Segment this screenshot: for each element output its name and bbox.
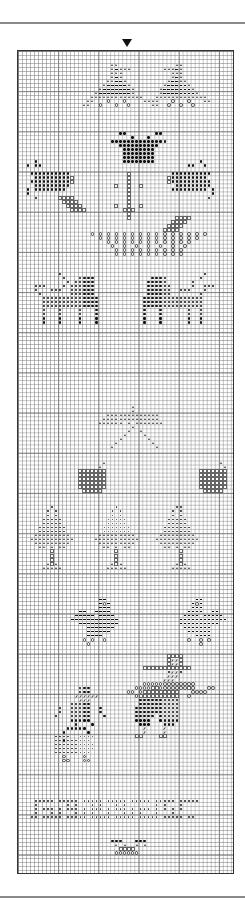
stitch-small-dot: [195, 799, 199, 803]
stitch-open-circle: [98, 236, 102, 240]
stitch-dot-black: [42, 320, 46, 324]
stitch-dot-black: [159, 131, 163, 135]
stitch-dot-black: [147, 722, 151, 726]
stitch-dot-black: [151, 714, 155, 718]
stitch-open-circle: [207, 638, 211, 642]
stitch-dash: [114, 622, 118, 626]
stitch-dot-black: [66, 184, 70, 188]
stitch-small-dot: [90, 746, 94, 750]
stitch-triangle: [90, 99, 94, 103]
stitch-slash: [143, 730, 147, 734]
stitch-triangle: [159, 421, 163, 425]
stitch-triangle: [187, 566, 191, 570]
stitch-triangle: [135, 843, 139, 847]
stitch-small-dot: [147, 799, 151, 803]
cross-stitch-chart-grid: [17, 50, 234, 874]
stitch-open-circle: [90, 638, 94, 642]
stitch-triangle: [123, 433, 127, 437]
stitch-open-circle: [187, 694, 191, 698]
stitch-open-square: [102, 485, 106, 489]
stitch-open-circle: [127, 103, 131, 107]
stitch-open-circle: [114, 240, 118, 244]
stitch-open-circle: [66, 759, 70, 763]
stitch-dot-black: [191, 164, 195, 168]
stitch-dash: [223, 618, 227, 622]
stitch-triangle: [191, 541, 195, 545]
stitch-open-circle: [139, 252, 143, 256]
stitch-dot-black: [207, 172, 211, 176]
stitch-open-circle: [139, 240, 143, 244]
stitch-triangle: [110, 445, 114, 449]
stitch-dot-black: [203, 272, 207, 276]
stitch-dot-black: [58, 320, 62, 324]
stitch-triangle: [123, 566, 127, 570]
stitch-open-circle: [171, 252, 175, 256]
stitch-triangle: [66, 541, 70, 545]
stitch-open-circle: [179, 103, 183, 107]
stitch-open-square: [187, 216, 191, 220]
stitch-dot-black: [62, 188, 66, 192]
stitch-small-dot: [131, 815, 135, 819]
stitch-open-square: [139, 204, 143, 208]
stitch-open-square: [163, 734, 167, 738]
stitch-dot-black: [155, 143, 159, 147]
stitch-open-circle: [191, 103, 195, 107]
stitch-small-dot: [106, 815, 110, 819]
stitch-triangle: [155, 99, 159, 103]
stitch-open-square: [131, 208, 135, 212]
stitch-open-circle: [183, 244, 187, 248]
stitch-triangle: [106, 545, 110, 549]
stitch-open-square: [98, 489, 102, 493]
stitch-small-dot: [179, 815, 183, 819]
stitch-small-dot: [86, 750, 90, 754]
stitch-triangle: [127, 67, 131, 71]
stitch-dot-black: [58, 710, 62, 714]
stitch-open-square: [219, 489, 223, 493]
stitch-small-dot: [147, 807, 151, 811]
stitch-open-square: [183, 220, 187, 224]
stitch-open-circle: [199, 642, 203, 646]
stitch-open-circle: [163, 252, 167, 256]
stitch-dot-black: [90, 722, 94, 726]
stitch-open-circle: [131, 252, 135, 256]
stitch-open-circle: [102, 638, 106, 642]
stitch-small-dot: [58, 815, 62, 819]
stitch-triangle: [42, 545, 46, 549]
stitch-dot-black: [163, 139, 167, 143]
center-arrow-icon: [122, 39, 132, 47]
stitch-triangle: [70, 537, 74, 541]
stitch-open-square: [114, 204, 118, 208]
stitch-dot-black: [26, 164, 30, 168]
stitch-dot-black: [199, 320, 203, 324]
stitch-small-dot: [171, 799, 175, 803]
stitch-small-dot: [155, 815, 159, 819]
stitch-dot-black: [62, 284, 66, 288]
stitch-dot-black: [187, 288, 191, 292]
stitch-triangle: [187, 545, 191, 549]
stitch-dot-black: [94, 320, 98, 324]
stitch-dot-black: [191, 284, 195, 288]
stitch-triangle: [58, 566, 62, 570]
stitch-open-circle: [211, 686, 215, 690]
stitch-dot-black: [203, 188, 207, 192]
stitch-triangle: [143, 843, 147, 847]
stitch-open-circle: [106, 99, 110, 103]
stitch-open-square: [139, 184, 143, 188]
stitch-dot-black: [78, 320, 82, 324]
stitch-open-circle: [114, 252, 118, 256]
stitch-open-square: [82, 208, 86, 212]
stitch-triangle: [155, 103, 159, 107]
stitch-dot-black: [143, 320, 147, 324]
stitch-open-circle: [179, 252, 183, 256]
stitch-dot-black: [211, 192, 215, 196]
stitch-open-circle: [163, 240, 167, 244]
stitch-small-dot: [163, 807, 167, 811]
stitch-open-circle: [86, 642, 90, 646]
stitch-small-dot: [179, 807, 183, 811]
stitch-dot-black: [175, 718, 179, 722]
stitch-open-square: [114, 184, 118, 188]
stitch-dot-black: [211, 284, 215, 288]
stitch-dash: [106, 630, 110, 634]
stitch-dot-black: [171, 722, 175, 726]
stitch-dot-black: [151, 160, 155, 164]
